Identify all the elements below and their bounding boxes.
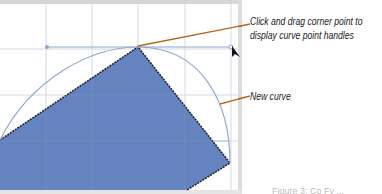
figure-caption: Figure 3: Co Fy ... [272, 186, 344, 194]
canvas-svg [0, 0, 242, 194]
callout-new-curve: New curve [250, 89, 291, 103]
callout-corner-point: Click and drag corner point to display c… [250, 14, 362, 42]
handle-point-icon[interactable] [45, 45, 49, 49]
frame-top [0, 0, 242, 4]
leader-line-corner [138, 24, 242, 46]
drawing-canvas[interactable] [0, 0, 242, 194]
callout-line-1: Click and drag corner point to [250, 14, 362, 28]
frame-bottom [0, 190, 242, 194]
callout-line-2: display curve point handles [250, 28, 362, 42]
